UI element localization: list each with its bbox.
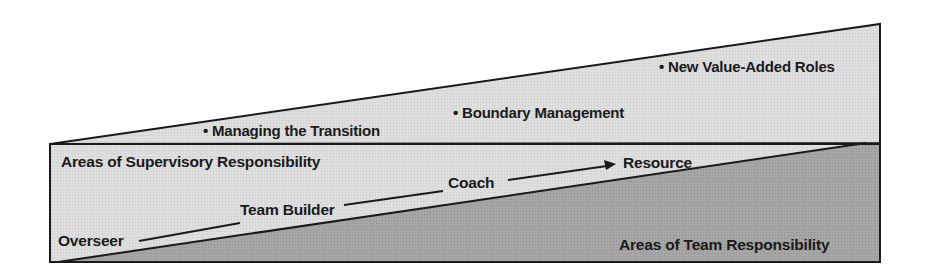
step-overseer: Overseer: [58, 232, 124, 250]
bullet-new-value-added-roles: • New Value-Added Roles: [659, 58, 835, 75]
bullet-managing-transition: • Managing the Transition: [203, 122, 380, 139]
step-resource: Resource: [623, 154, 692, 172]
supervisory-responsibility-label: Areas of Supervisory Responsibility: [61, 153, 320, 171]
bullet-icon: •: [203, 122, 208, 139]
team-responsibility-label: Areas of Team Responsibility: [619, 236, 829, 254]
upper-wedge-region: [50, 24, 880, 144]
step-team-builder: Team Builder: [240, 201, 335, 219]
bullet-boundary-management: • Boundary Management: [453, 104, 624, 121]
bullet-icon: •: [659, 58, 664, 75]
bullet-icon: •: [453, 104, 458, 121]
step-coach: Coach: [448, 174, 494, 192]
